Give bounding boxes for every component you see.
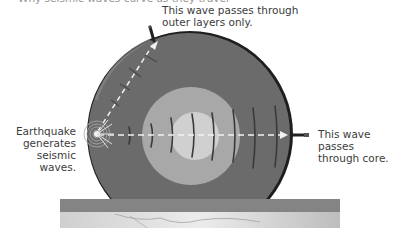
surface-band bbox=[60, 212, 340, 234]
label-earthquake-line-3: seismic waves. bbox=[2, 149, 76, 173]
earth-cross-section-diagram bbox=[0, 0, 404, 234]
seismograph-right-icon bbox=[291, 133, 309, 137]
label-outer-line-2: outer layers only. bbox=[162, 16, 298, 28]
inner-core bbox=[171, 112, 219, 160]
label-earthquake-line-1: Earthquake bbox=[2, 125, 76, 137]
label-outer-line-1: This wave passes through bbox=[162, 4, 298, 16]
label-earthquake-line-2: generates bbox=[2, 137, 76, 149]
label-core-line-2: through core. bbox=[318, 152, 404, 164]
label-earthquake: Earthquake generates seismic waves. bbox=[2, 125, 76, 173]
label-outer-layers: This wave passes through outer layers on… bbox=[162, 4, 298, 28]
crust-band bbox=[60, 199, 340, 213]
label-core-line-1: This wave passes bbox=[318, 128, 404, 152]
label-through-core: This wave passes through core. bbox=[318, 128, 404, 164]
